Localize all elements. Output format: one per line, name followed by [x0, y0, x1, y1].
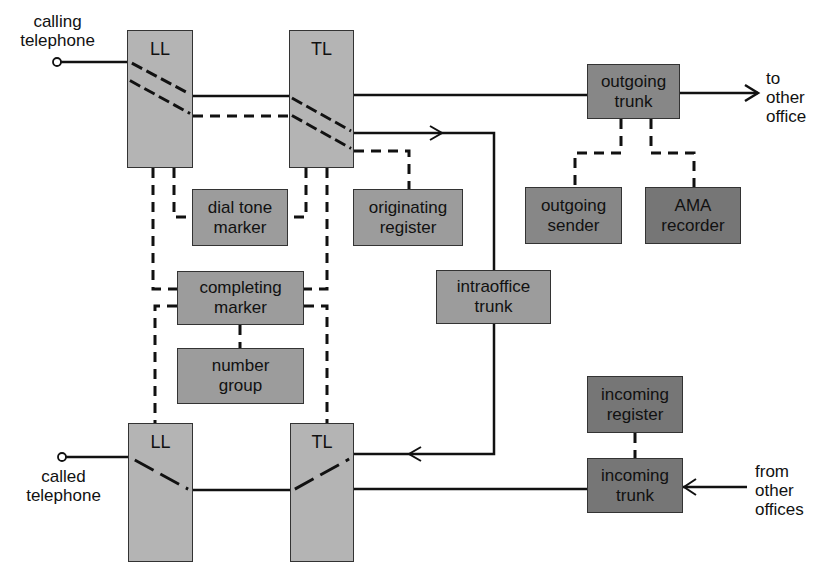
crosspoint-icon [128, 31, 192, 167]
outgoing-sender-box: outgoing sender [525, 187, 622, 244]
outgoing-trunk-box: outgoing trunk [587, 64, 680, 119]
completing-marker-box: completing marker [177, 271, 304, 325]
intraoffice-trunk-box: intraoffice trunk [436, 270, 551, 324]
number-group-box: number group [177, 348, 304, 404]
connection-lines [0, 0, 831, 576]
to-other-office-label: to other office [766, 69, 806, 126]
line-link-frame-originating: LL [127, 30, 193, 168]
crosspoint-icon [290, 31, 353, 167]
from-other-offices-label: from other offices [755, 462, 804, 519]
dial-tone-marker-box: dial tone marker [192, 189, 288, 246]
trunk-link-frame-terminating: TL [290, 423, 354, 562]
called-telephone-label: called telephone [16, 467, 111, 505]
crosspoint-icon [129, 424, 192, 561]
incoming-trunk-box: incoming trunk [587, 458, 683, 513]
line-link-frame-terminating: LL [128, 423, 193, 562]
trunk-link-frame-originating: TL [289, 30, 354, 168]
ama-recorder-box: AMA recorder [645, 187, 741, 244]
incoming-register-box: incoming register [587, 376, 683, 433]
originating-register-box: originating register [353, 189, 463, 246]
crosspoint-icon [291, 424, 353, 561]
calling-telephone-label: calling telephone [15, 12, 100, 50]
